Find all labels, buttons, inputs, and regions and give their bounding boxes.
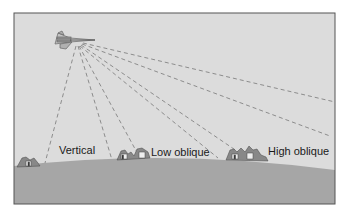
label-high-oblique: High oblique bbox=[268, 145, 329, 157]
label-low-oblique: Low oblique bbox=[151, 146, 210, 158]
aerial-angles-diagram bbox=[0, 0, 346, 220]
ground bbox=[14, 158, 335, 204]
label-vertical: Vertical bbox=[59, 144, 95, 156]
